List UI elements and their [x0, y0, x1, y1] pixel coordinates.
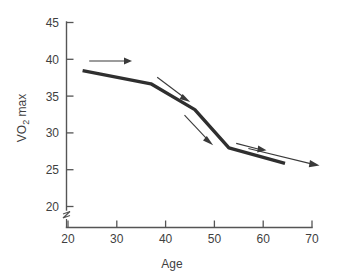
- x-ticks-group: 20 30 40 50 60 70: [61, 221, 319, 247]
- x-tick-label-20: 20: [61, 232, 75, 246]
- y-tick-30: 30: [46, 126, 74, 140]
- x-tick-label-40: 40: [159, 232, 173, 246]
- y-axis-title: VO2 max: [15, 94, 31, 142]
- chart-container: 45 40 35 30 25 20: [0, 0, 340, 277]
- axis-titles-group: Age VO2 max: [15, 94, 183, 271]
- x-tick-label-60: 60: [257, 232, 271, 246]
- slope-arrow-3: [185, 115, 214, 145]
- y-tick-label-20: 20: [46, 200, 60, 214]
- y-tick-35: 35: [46, 90, 74, 104]
- axes-group: [63, 22, 312, 228]
- data-series-group: [83, 71, 285, 164]
- x-tick-label-30: 30: [110, 232, 124, 246]
- y-tick-label-35: 35: [46, 90, 60, 104]
- y-tick-label-30: 30: [46, 126, 60, 140]
- x-tick-20: 20: [61, 221, 75, 247]
- y-axis-break-icon: [63, 212, 70, 219]
- x-axis-title: Age: [161, 257, 183, 271]
- y-axis-title-base: VO: [15, 125, 29, 142]
- x-tick-30: 30: [110, 221, 124, 247]
- vo2max-age-line-chart: 45 40 35 30 25 20: [0, 0, 340, 277]
- annotations-group: [89, 58, 319, 168]
- svg-text:VO2 max: VO2 max: [15, 94, 31, 142]
- vo2max-decline-curve: [83, 71, 285, 164]
- y-ticks-group: 45 40 35 30 25 20: [46, 16, 74, 214]
- y-tick-45: 45: [46, 16, 74, 30]
- x-tick-50: 50: [208, 221, 222, 247]
- x-tick-40: 40: [159, 221, 173, 247]
- x-tick-70: 70: [305, 221, 319, 247]
- y-tick-label-45: 45: [46, 16, 60, 30]
- x-tick-60: 60: [257, 221, 271, 247]
- y-tick-25: 25: [46, 163, 74, 177]
- x-tick-label-70: 70: [305, 232, 319, 246]
- slope-arrow-1: [89, 58, 132, 65]
- y-tick-label-40: 40: [46, 53, 60, 67]
- y-axis-title-tail: max: [15, 94, 29, 120]
- y-tick-40: 40: [46, 53, 74, 67]
- y-tick-label-25: 25: [46, 163, 60, 177]
- x-tick-label-50: 50: [208, 232, 222, 246]
